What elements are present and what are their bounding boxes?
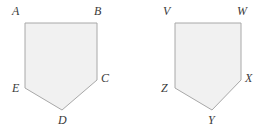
vertex-label-b: B xyxy=(94,5,101,17)
pentagon-vwxyz xyxy=(175,23,241,110)
vertex-label-d: D xyxy=(58,114,67,126)
pentagon-abcde xyxy=(25,23,97,110)
vertex-label-e: E xyxy=(12,82,19,94)
vertex-label-a: A xyxy=(12,5,19,17)
vertex-label-c: C xyxy=(101,72,109,84)
geometry-figure: A B C D E V W X Y Z xyxy=(0,0,265,136)
vertex-label-z: Z xyxy=(161,82,168,94)
vertex-label-v: V xyxy=(163,5,170,17)
polygons-svg xyxy=(0,0,265,136)
vertex-label-w: W xyxy=(237,5,247,17)
vertex-label-y: Y xyxy=(208,114,215,126)
vertex-label-x: X xyxy=(245,72,252,84)
